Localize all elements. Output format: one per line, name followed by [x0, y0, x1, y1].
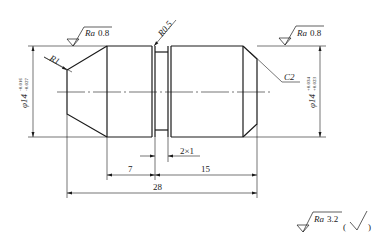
- left-diameter-upper-tol: -0.016: [18, 78, 23, 91]
- right-chamfer-outline: [243, 46, 257, 137]
- right-diameter-label: φ14 +0.034 +0.023: [306, 76, 317, 108]
- part-outline: [67, 46, 257, 137]
- left-cone-outline: [67, 46, 107, 137]
- roughness-top-left-value: 0.8: [98, 28, 110, 38]
- checkmark-symbol: [350, 211, 367, 230]
- roughness-top-right-value: 0.8: [310, 28, 322, 38]
- chamfer-c2-label: C2: [284, 72, 295, 82]
- fillet-r1-label: R1: [47, 52, 61, 66]
- dim-15-label: 15: [201, 164, 211, 174]
- dim-28-label: 28: [153, 182, 163, 192]
- left-diameter-lower-tol: -0.027: [24, 78, 29, 91]
- roughness-top-left-prefix: Ra: [84, 28, 95, 38]
- fillet-r05-label: R0.5: [155, 19, 174, 39]
- right-diameter-upper-tol: +0.034: [306, 76, 311, 91]
- general-roughness-open-paren: (: [343, 222, 346, 232]
- left-diameter-nominal: φ14: [19, 94, 29, 108]
- groove-dim-label: 2×1: [180, 146, 194, 156]
- shaft-drawing: φ14 -0.016 -0.027 φ14 +0.034 +0.023 Ra 0…: [0, 0, 389, 247]
- general-roughness-close-paren: ): [368, 222, 371, 232]
- dim-7-label: 7: [128, 164, 133, 174]
- roughness-top-right-prefix: Ra: [296, 28, 307, 38]
- right-diameter-lower-tol: +0.023: [312, 76, 317, 91]
- right-diameter-nominal: φ14: [307, 94, 317, 108]
- left-diameter-label: φ14 -0.016 -0.027: [18, 78, 29, 108]
- general-roughness-prefix: Ra: [313, 214, 324, 224]
- general-roughness-value: 3.2: [327, 214, 338, 224]
